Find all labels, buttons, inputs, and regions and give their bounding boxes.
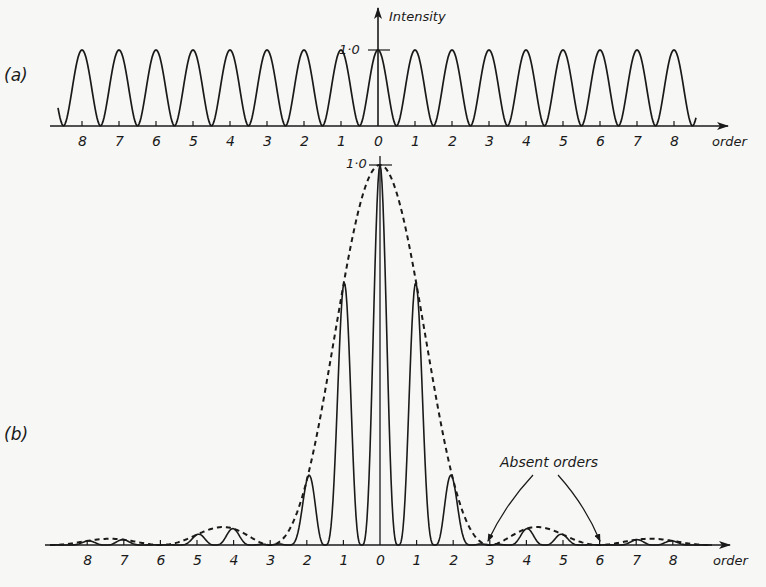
x-tick-label: 4 (226, 133, 235, 149)
x-tick-label: 3 (485, 133, 494, 149)
annotation-arrow-3 (488, 475, 533, 541)
x-tick-label: 8 (83, 552, 92, 568)
x-axis-label: order (713, 553, 750, 568)
x-tick-label: 0 (376, 552, 385, 568)
x-tick-label: 2 (449, 552, 458, 568)
diffraction-figure: (a) 1·0 Intensity order 8765432101234567… (0, 0, 766, 587)
panel-b: (b) 1·0 order 87654321012345678 Absent o… (4, 156, 750, 568)
x-tick-label: 5 (559, 133, 568, 149)
envelope-curve-dashed (50, 165, 712, 545)
panel-b-label: (b) (4, 424, 28, 444)
x-tick-label: 8 (669, 552, 678, 568)
y-axis-label: Intensity (389, 9, 446, 24)
x-tick-label: 8 (670, 133, 679, 149)
x-tick-label: 4 (522, 552, 531, 568)
x-tick-label: 2 (303, 552, 312, 568)
x-tick-label: 1 (411, 133, 420, 149)
x-tick-label: 3 (266, 552, 275, 568)
x-tick-label: 3 (263, 133, 272, 149)
absent-orders-annotation: Absent orders (499, 454, 598, 470)
x-tick-label: 7 (120, 552, 129, 568)
x-tick-label: 4 (522, 133, 531, 149)
panel-a: (a) 1·0 Intensity order 8765432101234567… (4, 8, 749, 149)
x-tick-label: 5 (559, 552, 568, 568)
x-tick-label: 0 (374, 133, 383, 149)
x-tick-label: 5 (193, 552, 202, 568)
x-tick-label: 2 (300, 133, 309, 149)
x-tick-label: 6 (156, 552, 165, 568)
x-tick-label: 8 (78, 133, 87, 149)
x-tick-label: 6 (596, 133, 605, 149)
x-axis-label: order (712, 134, 749, 149)
x-tick-label: 5 (189, 133, 198, 149)
x-tick-label: 2 (448, 133, 457, 149)
x-tick-label: 3 (486, 552, 495, 568)
x-tick-label: 7 (632, 552, 641, 568)
x-tick-label: 7 (633, 133, 642, 149)
x-tick-label: 1 (337, 133, 346, 149)
intensity-curve-b (50, 165, 712, 545)
x-tick-label: 7 (115, 133, 124, 149)
annotation-arrow-6 (558, 475, 600, 541)
x-tick-label: 6 (152, 133, 161, 149)
x-tick-label: 1 (339, 552, 348, 568)
y-tick-label: 1·0 (346, 156, 367, 171)
x-tick-label: 6 (596, 552, 605, 568)
x-tick-label: 4 (230, 552, 239, 568)
panel-a-label: (a) (4, 65, 28, 85)
intensity-curve-a (58, 50, 696, 126)
x-tick-label: 1 (413, 552, 422, 568)
y-tick-label: 1·0 (339, 42, 360, 57)
